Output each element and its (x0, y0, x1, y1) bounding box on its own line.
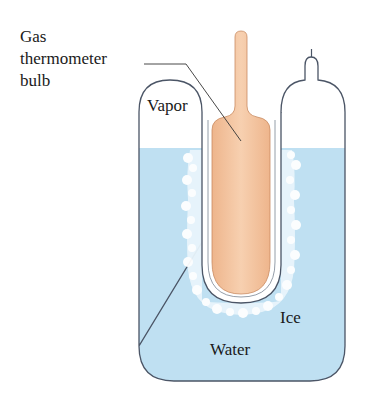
gas-label-line-2: thermometer (20, 48, 107, 70)
water-label: Water (210, 339, 250, 360)
gas-label-line-1: Gas (20, 26, 107, 48)
gas-label-line-3: bulb (20, 70, 107, 92)
vapor-label: Vapor (147, 95, 188, 116)
ice-label: Ice (280, 307, 301, 328)
gas-thermometer-bulb-label: Gas thermometer bulb (20, 26, 107, 92)
thermometer-bulb (212, 31, 270, 294)
triple-point-cell-diagram: Gas thermometer bulb Vapor Ice Water (0, 0, 372, 403)
